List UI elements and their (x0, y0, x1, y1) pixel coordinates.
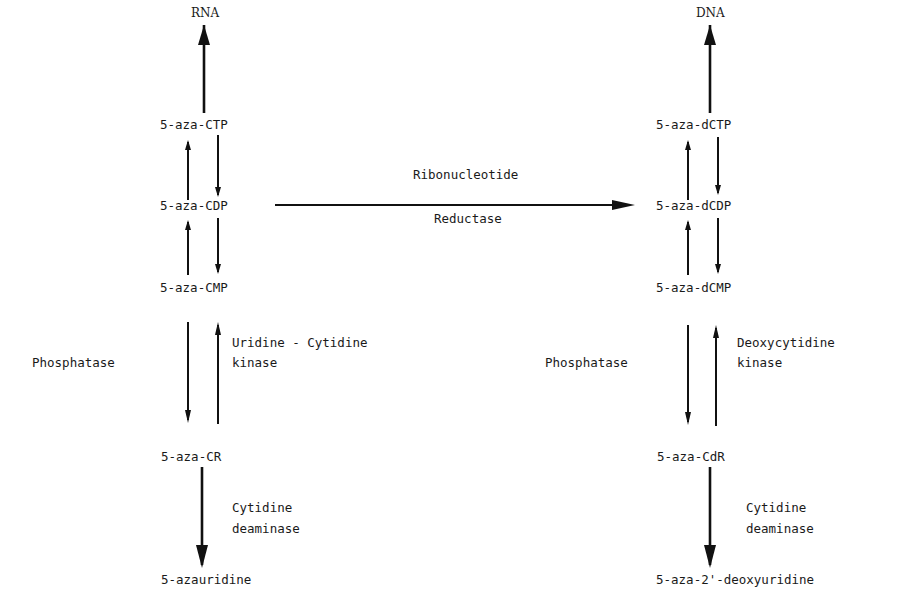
cytidine-deaminase-right-line1: Cytidine (746, 500, 806, 515)
ribonucleotide-label: Ribonucleotide (413, 167, 518, 182)
node-5-aza-cdp: 5-aza-CDP (160, 198, 228, 213)
phosphatase-label-left: Phosphatase (32, 355, 115, 370)
node-5-aza-cmp: 5-aza-CMP (160, 280, 228, 295)
uridine-cytidine-kinase-line1: Uridine - Cytidine (232, 335, 367, 350)
phosphatase-label-right: Phosphatase (545, 355, 628, 370)
node-5-aza-dcmp: 5-aza-dCMP (656, 280, 731, 295)
cytidine-deaminase-left-line1: Cytidine (232, 500, 292, 515)
node-5-aza-cdr: 5-aza-CdR (657, 449, 725, 464)
rna-label: RNA (191, 6, 219, 21)
pathway-arrows (0, 0, 900, 609)
deoxycytidine-kinase-line2: kinase (737, 355, 782, 370)
cytidine-deaminase-right-line2: deaminase (746, 521, 814, 536)
reductase-label: Reductase (434, 211, 502, 226)
node-5-aza-cr: 5-aza-CR (161, 449, 221, 464)
uridine-cytidine-kinase-line2: kinase (232, 355, 277, 370)
dna-label: DNA (696, 6, 725, 21)
deoxycytidine-kinase-line1: Deoxycytidine (737, 335, 835, 350)
node-5-aza-dcdp: 5-aza-dCDP (656, 198, 731, 213)
node-5-aza-ctp: 5-aza-CTP (160, 117, 228, 132)
node-5-aza-dctp: 5-aza-dCTP (656, 117, 731, 132)
node-5-aza-2-deoxyuridine: 5-aza-2'-deoxyuridine (656, 572, 814, 587)
node-5-azauridine: 5-azauridine (161, 572, 251, 587)
metabolic-pathway-diagram: RNA 5-aza-CTP 5-aza-CDP 5-aza-CMP Phosph… (0, 0, 900, 609)
cytidine-deaminase-left-line2: deaminase (232, 521, 300, 536)
